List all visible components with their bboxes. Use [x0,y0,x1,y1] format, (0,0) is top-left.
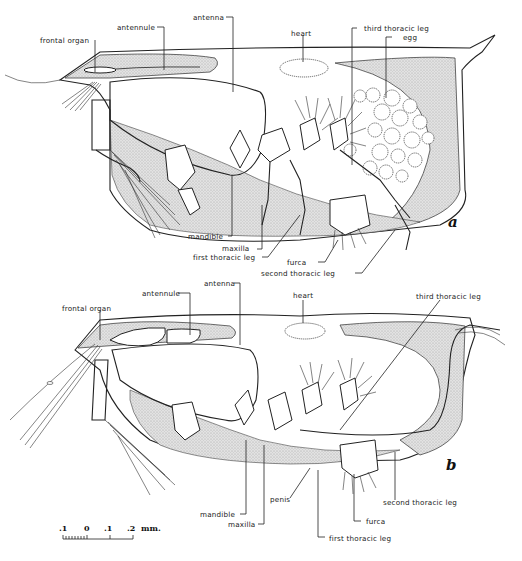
scale-bar: .1 0 .1 .2 mm. [59,523,161,539]
label-b-antenna: antenna [204,279,235,288]
label-b-frontal-organ: frontal organ [62,304,111,313]
label-b-second-thoracic-leg: second thoracic leg [383,498,457,507]
panel-label-a: a [448,213,458,231]
label-b-mandible: mandible [200,510,235,519]
label-b-penis: penis [270,495,290,504]
label-a-furca: furca [287,258,306,267]
label-b-third-thoracic-leg: third thoracic leg [416,292,481,301]
panel-label-b: b [446,456,457,474]
label-a-egg: egg [403,33,417,42]
scale-tick-0-2: .2 [127,523,135,533]
panel-a-drawing [5,35,495,250]
scale-tick-neg-0-1: .1 [59,523,67,533]
label-a-mandible: mandible [188,232,223,241]
label-a-maxilla: maxilla [222,244,249,253]
label-b-heart: heart [293,291,313,300]
panel-b-drawing [10,313,505,495]
label-a-frontal-organ: frontal organ [40,36,89,45]
label-b-furca: furca [366,517,385,526]
label-a-antenna: antenna [193,13,224,22]
label-a-second-thoracic-leg: second thoracic leg [261,269,335,278]
label-a-third-thoracic-leg: third thoracic leg [364,24,429,33]
scale-tick-0-1: .1 [104,523,112,533]
label-b-first-thoracic-leg: first thoracic leg [329,534,391,543]
label-b-antennule: antennule [142,289,180,298]
label-b-maxilla: maxilla [228,520,255,529]
label-a-heart: heart [291,29,311,38]
scale-unit: mm. [141,523,161,533]
label-a-antennule: antennule [117,23,155,32]
label-a-first-thoracic-leg: first thoracic leg [193,253,255,262]
crustacean-anatomy-figure: frontal organ antennule antenna heart th… [0,0,522,561]
scale-tick-0: 0 [84,523,90,533]
